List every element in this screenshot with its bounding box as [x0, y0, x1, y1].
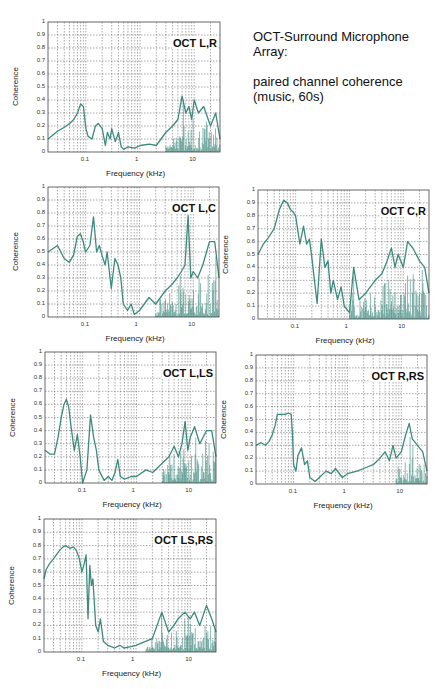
coherence-plot-3: 00.10.20.30.40.50.60.70.80.910.1110Coher…	[258, 190, 429, 319]
x-tick-label: 10	[396, 488, 403, 494]
plot-channel-label: OCT L,C	[171, 202, 217, 214]
y-tick-label: 0.9	[37, 31, 45, 37]
y-tick-label: 1	[250, 351, 253, 357]
plot-channel-label: OCT L,LS	[162, 367, 214, 379]
x-tick-label: 0.1	[289, 488, 297, 494]
y-tick-label: 0.8	[37, 44, 45, 50]
y-tick-label: 0.2	[34, 453, 42, 459]
y-tick-label: 0.7	[37, 222, 45, 228]
y-axis-label: Coherence	[221, 234, 230, 273]
plot-channel-label: OCT LS,RS	[153, 534, 214, 546]
y-tick-label: 0.2	[245, 454, 253, 460]
x-tick-label: 1	[344, 323, 347, 329]
y-tick-label: 0.6	[34, 400, 42, 406]
noise-spikes	[396, 437, 427, 484]
y-axis-label: Coherence	[11, 232, 20, 271]
y-tick-label: 0.5	[33, 582, 41, 588]
figure-title-line-1: OCT-Surround Microphone	[253, 29, 443, 44]
y-tick-label: 0	[39, 479, 42, 485]
x-tick-label: 1	[135, 156, 138, 162]
x-tick-label: 10	[188, 321, 195, 327]
y-tick-label: 0.6	[37, 235, 45, 241]
y-tick-label: 0.9	[33, 528, 41, 534]
x-tick-label: 10	[185, 487, 192, 493]
x-tick-label: 1	[131, 656, 134, 662]
y-tick-label: 0.3	[33, 608, 41, 614]
plot-channel-label: OCT L,R	[172, 37, 218, 49]
x-axis-label: Frequency (kHz)	[102, 669, 161, 678]
x-tick-label: 0.1	[78, 487, 86, 493]
y-tick-label: 0.1	[247, 302, 255, 308]
x-tick-label: 0.1	[77, 656, 85, 662]
y-tick-label: 0.9	[34, 361, 42, 367]
y-tick-label: 0.8	[37, 209, 45, 215]
y-tick-label: 1	[252, 186, 255, 192]
plot-channel-label: OCT R,RS	[370, 370, 425, 382]
figure-title-line-2: Array:	[253, 44, 443, 59]
y-tick-label: 0.8	[34, 374, 42, 380]
y-tick-label: 0.6	[247, 238, 255, 244]
y-tick-label: 0.7	[245, 390, 253, 396]
coherence-plot-4: 00.10.20.30.40.50.60.70.80.910.1110Coher…	[45, 352, 216, 483]
x-tick-label: 0.1	[81, 321, 89, 327]
x-tick-label: 1	[134, 321, 137, 327]
x-axis-label: Frequency (kHz)	[314, 501, 373, 510]
y-tick-label: 0.9	[37, 196, 45, 202]
x-tick-label: 1	[131, 487, 134, 493]
plot-channel-label: OCT C,R	[380, 205, 427, 217]
y-tick-label: 0.2	[37, 122, 45, 128]
y-tick-label: 1	[42, 183, 45, 189]
x-tick-label: 10	[185, 656, 192, 662]
y-axis-label: Coherence	[219, 399, 228, 438]
y-tick-label: 0.4	[245, 428, 253, 434]
y-tick-label: 0.1	[34, 466, 42, 472]
x-axis-label: Frequency (kHz)	[106, 334, 165, 343]
y-axis-label: Coherence	[11, 67, 20, 106]
y-tick-label: 0.5	[245, 416, 253, 422]
figure-subtitle-line-2: (music, 60s)	[253, 89, 443, 104]
y-tick-label: 0.4	[247, 263, 255, 269]
x-axis-label: Frequency (kHz)	[103, 500, 162, 509]
y-tick-label: 0.8	[33, 542, 41, 548]
y-tick-label: 0.7	[33, 555, 41, 561]
y-tick-label: 0.8	[245, 377, 253, 383]
noise-spikes	[349, 270, 428, 319]
y-tick-label: 0.4	[37, 96, 45, 102]
y-tick-label: 0.2	[37, 287, 45, 293]
y-tick-label: 0.3	[245, 441, 253, 447]
x-tick-label: 1	[342, 488, 345, 494]
noise-spikes	[146, 612, 216, 652]
y-tick-label: 0.5	[37, 248, 45, 254]
y-tick-label: 0.1	[33, 635, 41, 641]
y-tick-label: 0.8	[247, 212, 255, 218]
coherence-plot-1: 00.10.20.30.40.50.60.70.80.910.1110Coher…	[48, 22, 220, 152]
y-tick-label: 0.2	[33, 621, 41, 627]
coherence-plot-6: 00.10.20.30.40.50.60.70.80.910.1110Coher…	[44, 519, 216, 652]
y-axis-label: Coherence	[8, 397, 17, 436]
y-tick-label: 0	[42, 313, 45, 319]
y-tick-label: 0.7	[37, 57, 45, 63]
figure-title-block: OCT-Surround Microphone Array: paired ch…	[253, 29, 443, 104]
y-tick-label: 0.9	[245, 364, 253, 370]
y-tick-label: 0.6	[33, 568, 41, 574]
x-tick-label: 0.1	[291, 323, 299, 329]
y-tick-label: 0.4	[37, 261, 45, 267]
y-tick-label: 0.2	[247, 289, 255, 295]
y-tick-label: 0	[250, 480, 253, 486]
y-tick-label: 0.1	[245, 467, 253, 473]
y-tick-label: 1	[38, 515, 41, 521]
y-tick-label: 0	[38, 648, 41, 654]
x-tick-label: 10	[398, 323, 405, 329]
y-tick-label: 0.6	[37, 70, 45, 76]
y-tick-label: 0.7	[247, 225, 255, 231]
y-tick-label: 1	[42, 18, 45, 24]
y-tick-label: 0.1	[37, 135, 45, 141]
x-axis-label: Frequency (kHz)	[316, 336, 375, 345]
y-tick-label: 0.4	[34, 427, 42, 433]
x-tick-label: 0.1	[81, 156, 89, 162]
y-tick-label: 0.4	[33, 595, 41, 601]
y-tick-label: 0.5	[247, 251, 255, 257]
y-tick-label: 0.7	[34, 387, 42, 393]
coherence-plot-5: 00.10.20.30.40.50.60.70.80.910.1110Coher…	[256, 355, 427, 484]
y-tick-label: 1	[39, 348, 42, 354]
